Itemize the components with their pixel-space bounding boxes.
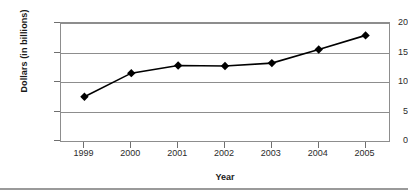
plot-inner: 1999: 7.52000: 11.52001: 12.82002: 12.72…	[61, 23, 389, 141]
data-point-marker: 2000: 11.5	[127, 69, 135, 77]
x-tick-mark	[365, 142, 366, 148]
data-point-marker: 2002: 12.7	[221, 62, 229, 70]
data-point-marker: 2001: 12.8	[174, 61, 182, 69]
x-tick-mark	[83, 142, 84, 148]
data-point-marker: 1999: 7.5	[80, 93, 88, 101]
data-point-marker: 2004: 15.5	[315, 45, 323, 53]
plot-area: 1999: 7.52000: 11.52001: 12.82002: 12.72…	[60, 22, 390, 142]
x-tick-mark	[224, 142, 225, 148]
chart-page: Dollars (in billions) 05101520 1999: 7.5…	[0, 0, 408, 196]
data-point-marker: 2003: 13.2	[268, 59, 276, 67]
y-axis-title: Dollars (in billions)	[19, 0, 29, 111]
data-series-line: 1999: 7.52000: 11.52001: 12.82002: 12.72…	[61, 23, 389, 141]
x-tick-mark	[271, 142, 272, 148]
x-tick-mark	[177, 142, 178, 148]
x-axis-title: Year	[60, 172, 390, 182]
data-point-marker: 2005: 17.9	[361, 31, 369, 39]
bottom-divider	[0, 188, 408, 190]
x-tick-mark	[318, 142, 319, 148]
x-tick-label: 2005	[335, 148, 395, 158]
x-tick-mark	[130, 142, 131, 148]
